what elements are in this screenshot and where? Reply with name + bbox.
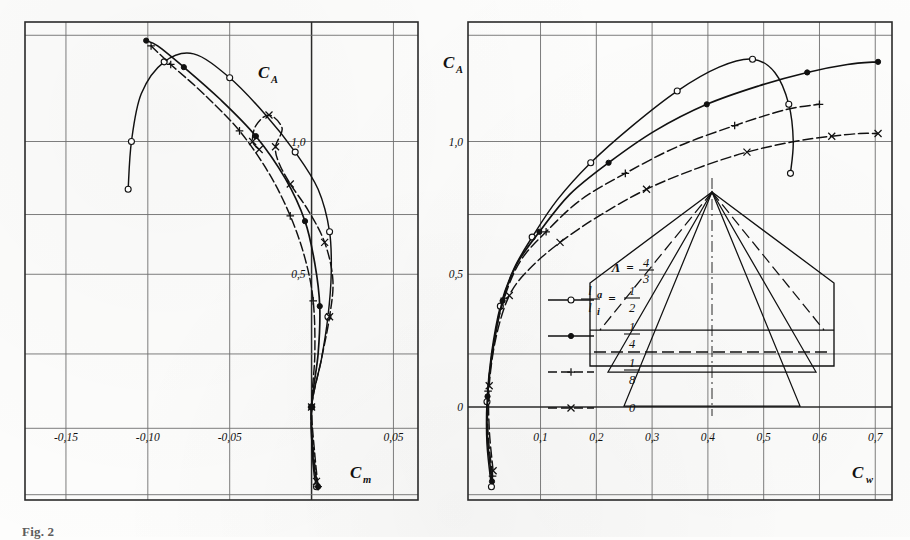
axis-names: CACw xyxy=(443,53,874,485)
x-axis-name: C xyxy=(852,463,864,482)
marker-cross xyxy=(557,239,564,246)
marker-cross xyxy=(256,146,263,153)
legend: Λ=43lali=1214180 xyxy=(548,256,654,415)
legend-aspect-equals: = xyxy=(626,260,633,275)
marker-filled-circle xyxy=(704,102,709,107)
marker-plus xyxy=(567,368,575,376)
legend-aspect-numerator: 4 xyxy=(643,256,649,270)
legend-entry[interactable]: 0 xyxy=(548,401,636,415)
x-tick-label: 0,7 xyxy=(868,431,884,444)
marker-filled-circle xyxy=(568,333,573,338)
x-tick-label: 0,5 xyxy=(756,431,771,444)
marker-filled-circle xyxy=(302,219,307,224)
figure-caption: Fig. 2 xyxy=(22,524,54,540)
marker-open-circle xyxy=(488,484,494,490)
y-inline-label: 0,5 xyxy=(291,268,306,281)
x-tick-label: 0,4 xyxy=(701,431,716,444)
legend-ratio-numerator-sub: a xyxy=(597,289,602,300)
marker-filled-circle xyxy=(875,59,880,64)
x-axis-name-sub: w xyxy=(866,474,874,485)
series-line xyxy=(486,59,793,487)
marker-open-circle xyxy=(292,149,298,155)
marker-plus xyxy=(286,212,294,220)
marker-filled-circle xyxy=(181,65,186,70)
x-tick-label: 0,05 xyxy=(383,431,403,444)
series-line xyxy=(487,104,819,476)
x-axis-name: C xyxy=(350,463,362,482)
marker-filled-circle xyxy=(537,229,542,234)
y-axis-name-sub: A xyxy=(455,64,463,75)
x-tick-label: 0,1 xyxy=(533,431,547,444)
data-series xyxy=(484,101,823,480)
legend-value-denominator: 2 xyxy=(629,301,635,315)
grid-lines xyxy=(25,22,418,500)
marker-filled-circle xyxy=(317,304,322,309)
legend-ratio-equals: = xyxy=(608,291,615,306)
marker-filled-circle xyxy=(606,160,611,165)
marker-plus xyxy=(622,170,630,178)
marker-plus xyxy=(731,122,739,130)
marker-open-circle xyxy=(674,88,680,94)
marker-cross xyxy=(643,186,650,193)
y-axis-name: C xyxy=(443,53,455,72)
y-tick-label: 1,0 xyxy=(449,136,464,149)
marker-filled-circle xyxy=(144,38,149,43)
marker-open-circle xyxy=(128,139,134,145)
moment-polar-chart: -0,15-0,10-0,050,051,00,5CACm xyxy=(0,0,440,515)
marker-open-circle xyxy=(787,170,793,176)
wing-planform-inset xyxy=(590,178,834,416)
legend-value-denominator: 4 xyxy=(629,337,635,351)
y-axis-name-sub: A xyxy=(270,74,278,85)
marker-filled-circle xyxy=(805,70,810,75)
data-series xyxy=(485,59,881,484)
data-series xyxy=(486,130,882,474)
y-axis-name: C xyxy=(258,63,270,82)
series-line xyxy=(146,41,320,487)
series-line xyxy=(151,46,318,487)
legend-entry[interactable]: 12 xyxy=(548,284,640,315)
y-tick-labels: 00,51,0 xyxy=(449,136,464,414)
legend-ratio-denominator-sub: i xyxy=(597,306,600,317)
marker-cross xyxy=(506,292,513,299)
marker-open-circle xyxy=(750,56,756,62)
x-tick-labels: 0,10,20,30,40,50,60,7 xyxy=(533,431,883,444)
y-tick-label: 0 xyxy=(457,401,463,413)
x-tick-label: -0,10 xyxy=(136,431,160,444)
marker-plus xyxy=(309,297,317,305)
marker-open-circle xyxy=(227,75,233,81)
x-tick-label: -0,05 xyxy=(218,431,242,444)
drag-polar-chart: 0,10,20,30,40,50,60,700,51,0CACwΛ=43lali… xyxy=(440,0,910,515)
series-group xyxy=(125,38,333,491)
y-tick-label: 0,5 xyxy=(449,268,464,281)
marker-open-circle xyxy=(588,160,594,166)
marker-cross xyxy=(321,239,328,246)
series-line xyxy=(252,115,333,481)
legend-entry[interactable]: 14 xyxy=(548,320,640,351)
data-series xyxy=(147,42,322,490)
grid-lines xyxy=(468,22,892,500)
x-tick-label: -0,15 xyxy=(54,431,78,444)
marker-open-circle xyxy=(568,297,574,303)
x-tick-label: 0,3 xyxy=(645,431,660,444)
x-axis-name-sub: m xyxy=(363,474,371,485)
legend-value-numerator: 1 xyxy=(629,284,635,298)
series-group xyxy=(484,56,882,490)
x-tick-labels: -0,15-0,10-0,050,05 xyxy=(54,431,404,444)
data-series xyxy=(144,38,323,489)
marker-open-circle xyxy=(125,186,131,192)
x-tick-label: 0,6 xyxy=(812,431,827,444)
y-inline-label: 1,0 xyxy=(291,136,306,149)
marker-plus xyxy=(816,101,824,109)
legend-value-numerator: 1 xyxy=(629,356,635,370)
marker-open-circle xyxy=(786,101,792,107)
x-tick-label: 0,2 xyxy=(589,431,604,444)
marker-open-circle xyxy=(327,229,333,235)
legend-value: 0 xyxy=(629,401,636,415)
data-series xyxy=(249,111,333,484)
